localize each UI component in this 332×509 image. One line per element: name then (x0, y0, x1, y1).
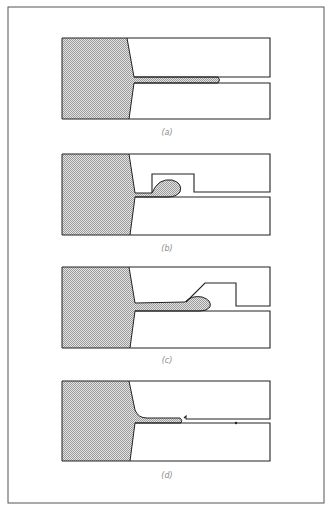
mold-bottom-c (130, 311, 270, 348)
injection-molding-diagram: (a) (b) (c) (d) (0, 0, 332, 509)
panel-a: (a) (62, 38, 270, 137)
melt-fill-d (62, 381, 182, 461)
panel-c: (c) (62, 267, 270, 365)
panel-label-d: (d) (161, 471, 172, 480)
mold-top-d (129, 381, 270, 419)
panel-b: (b) (62, 154, 270, 253)
panel-label-b: (b) (161, 244, 172, 253)
panel-d: (d) (62, 381, 270, 480)
mold-bottom-d (130, 423, 270, 461)
melt-fill-a (62, 38, 220, 119)
panel-label-c: (c) (162, 356, 173, 365)
mold-bottom-b (130, 197, 270, 235)
mold-top-a (127, 38, 270, 77)
melt-fill-b (62, 154, 181, 235)
panel-label-a: (a) (161, 128, 172, 137)
mold-top-b (129, 154, 270, 193)
ejected-particle (235, 422, 237, 424)
mold-bottom-a (129, 83, 270, 119)
melt-fill-c (62, 267, 210, 348)
